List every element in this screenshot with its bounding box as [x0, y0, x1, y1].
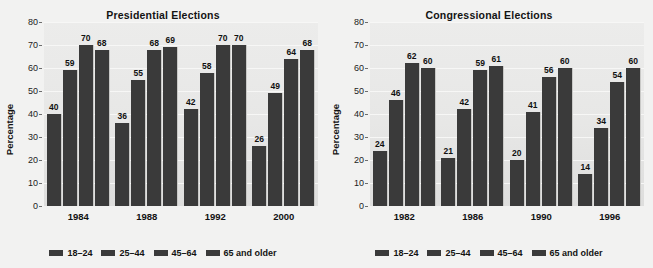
y-tick-label: 0: [12, 201, 38, 211]
plot-area: 24466260214259612041566014345460: [370, 22, 644, 206]
bar-slot: 70: [79, 22, 94, 206]
y-axis-ticks: 80706050403020100: [16, 22, 44, 206]
x-tick-label: 1990: [507, 206, 576, 226]
bar[interactable]: 69: [163, 47, 178, 206]
bar-value-label: 55: [134, 68, 143, 78]
bar-slot: 42: [457, 22, 472, 206]
bar-value-label: 42: [460, 97, 469, 107]
legend-item[interactable]: 25–44: [427, 248, 470, 258]
bar[interactable]: 58: [200, 73, 215, 206]
bar[interactable]: 59: [63, 70, 78, 206]
bar-slot: 64: [284, 22, 299, 206]
bar[interactable]: 61: [489, 66, 504, 206]
bar-slot: 69: [163, 22, 178, 206]
legend-item[interactable]: 45–64: [154, 248, 197, 258]
bar-slot: 49: [268, 22, 283, 206]
bar[interactable]: 54: [610, 82, 625, 206]
bar-value-label: 21: [444, 146, 453, 156]
legend-label: 65 and older: [224, 248, 277, 258]
bar[interactable]: 49: [268, 93, 283, 206]
bar-slot: 68: [300, 22, 315, 206]
bar[interactable]: 24: [373, 151, 388, 206]
bar[interactable]: 70: [216, 45, 231, 206]
bar[interactable]: 68: [300, 50, 315, 206]
bar[interactable]: 60: [421, 68, 436, 206]
bar-value-label: 68: [150, 38, 159, 48]
bar[interactable]: 14: [578, 174, 593, 206]
bar-slot: 58: [200, 22, 215, 206]
legend-label: 25–44: [119, 248, 144, 258]
y-tick-label: 10: [338, 178, 364, 188]
legend-swatch-icon: [101, 250, 115, 256]
bar-slot: 41: [526, 22, 541, 206]
x-tick-label: 1996: [576, 206, 645, 226]
bar[interactable]: 42: [184, 109, 199, 206]
bar-group: 40597068: [44, 22, 113, 206]
chart-panel-2: Congressional ElectionsPercentage8070605…: [326, 0, 652, 268]
x-tick-label: 1982: [370, 206, 439, 226]
x-axis: 1984198819922000: [44, 206, 318, 226]
bar-value-label: 60: [629, 56, 638, 66]
bar-value-label: 49: [271, 81, 280, 91]
legend-item[interactable]: 18–24: [375, 248, 418, 258]
x-tick-label: 1986: [439, 206, 508, 226]
legend-item[interactable]: 65 and older: [206, 248, 277, 258]
axis-area: 8070605040302010024466260214259612041566…: [342, 22, 644, 240]
bar[interactable]: 42: [457, 109, 472, 206]
bar-slot: 70: [232, 22, 247, 206]
bar-value-label: 58: [202, 61, 211, 71]
legend-label: 25–44: [445, 248, 470, 258]
bar[interactable]: 20: [510, 160, 525, 206]
bar[interactable]: 34: [594, 128, 609, 206]
y-tick-label: 70: [12, 40, 38, 50]
bar-slot: 54: [610, 22, 625, 206]
bar-slot: 62: [405, 22, 420, 206]
y-tick-label: 20: [338, 155, 364, 165]
bar-group: 26496468: [250, 22, 319, 206]
bar[interactable]: 62: [405, 63, 420, 206]
legend-label: 65 and older: [550, 248, 603, 258]
bar-groups: 24466260214259612041566014345460: [370, 22, 644, 206]
bar[interactable]: 70: [79, 45, 94, 206]
legend-item[interactable]: 45–64: [480, 248, 523, 258]
bar[interactable]: 56: [542, 77, 557, 206]
legend-item[interactable]: 18–24: [49, 248, 92, 258]
bar[interactable]: 55: [131, 80, 146, 207]
bar-value-label: 70: [218, 33, 227, 43]
bar-value-label: 56: [544, 65, 553, 75]
chart-title: Presidential Elections: [0, 8, 326, 22]
legend-label: 45–64: [172, 248, 197, 258]
bar[interactable]: 68: [147, 50, 162, 206]
bar[interactable]: 68: [95, 50, 110, 206]
y-tick-label: 20: [12, 155, 38, 165]
legend-swatch-icon: [375, 250, 389, 256]
bar[interactable]: 60: [626, 68, 641, 206]
bar[interactable]: 21: [441, 158, 456, 206]
bar-value-label: 64: [287, 47, 296, 57]
bar[interactable]: 36: [115, 123, 130, 206]
legend-label: 45–64: [498, 248, 523, 258]
bar-value-label: 26: [255, 134, 264, 144]
bar[interactable]: 70: [232, 45, 247, 206]
bar-slot: 59: [473, 22, 488, 206]
bar-value-label: 46: [391, 88, 400, 98]
bar[interactable]: 41: [526, 112, 541, 206]
bar[interactable]: 60: [558, 68, 573, 206]
legend-swatch-icon: [480, 250, 494, 256]
bar[interactable]: 64: [284, 59, 299, 206]
bar-value-label: 60: [560, 56, 569, 66]
bar-value-label: 14: [581, 162, 590, 172]
bar-slot: 14: [578, 22, 593, 206]
y-tick-label: 50: [338, 86, 364, 96]
legend-item[interactable]: 25–44: [101, 248, 144, 258]
bar[interactable]: 40: [47, 114, 62, 206]
bar[interactable]: 59: [473, 70, 488, 206]
bar-slot: 21: [441, 22, 456, 206]
legend-label: 18–24: [393, 248, 418, 258]
legend-item[interactable]: 65 and older: [532, 248, 603, 258]
y-tick-label: 70: [338, 40, 364, 50]
bar[interactable]: 26: [252, 146, 267, 206]
bar-value-label: 59: [65, 58, 74, 68]
chart-body: Percentage807060504030201002446626021425…: [326, 22, 652, 240]
bar[interactable]: 46: [389, 100, 404, 206]
